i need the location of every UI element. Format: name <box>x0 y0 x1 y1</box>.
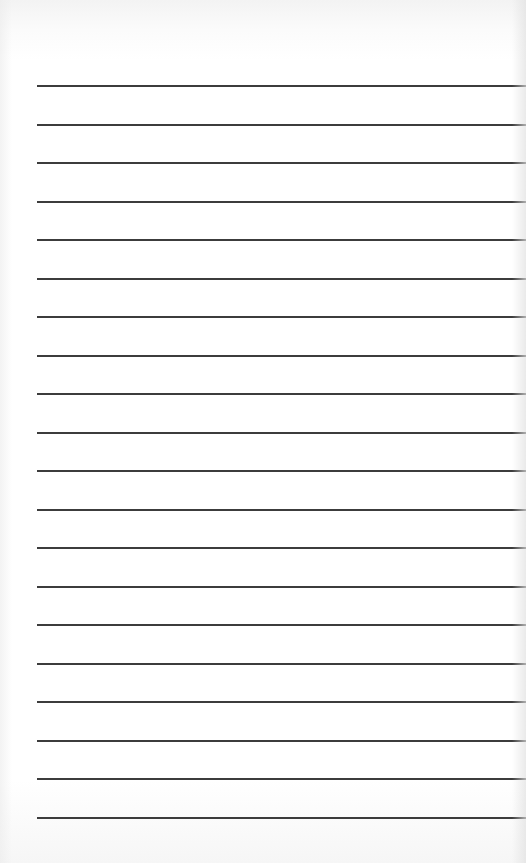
ruled-line <box>37 470 526 472</box>
page-edge-shadow <box>512 0 526 863</box>
ruled-line <box>37 547 526 549</box>
ruled-line <box>37 124 526 126</box>
ruled-line <box>37 740 526 742</box>
ruled-line <box>37 663 526 665</box>
ruled-line <box>37 509 526 511</box>
page-left-shadow <box>0 0 12 863</box>
lined-paper-page <box>0 0 526 863</box>
ruled-line <box>37 701 526 703</box>
ruled-line <box>37 432 526 434</box>
ruled-line <box>37 393 526 395</box>
ruled-line <box>37 201 526 203</box>
ruled-line <box>37 817 526 819</box>
ruled-line <box>37 85 526 87</box>
ruled-line <box>37 239 526 241</box>
ruled-line <box>37 778 526 780</box>
ruled-line <box>37 355 526 357</box>
ruled-line <box>37 316 526 318</box>
ruled-line <box>37 624 526 626</box>
ruled-line <box>37 162 526 164</box>
ruled-line <box>37 278 526 280</box>
ruled-line <box>37 586 526 588</box>
